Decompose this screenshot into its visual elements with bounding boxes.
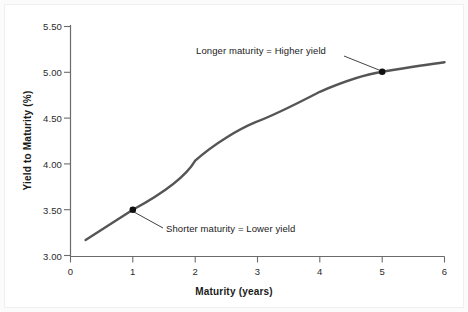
x-axis-title: Maturity (years) xyxy=(0,286,468,297)
x-tick-label-0: 0 xyxy=(61,266,81,277)
chart-figure: 5.50 5.00 4.50 4.00 3.50 3.00 0 1 2 3 4 … xyxy=(0,0,468,312)
x-tick-label-1: 1 xyxy=(123,266,143,277)
annotation-longer-maturity: Longer maturity = Higher yield xyxy=(196,45,326,56)
annotation-leader-lower xyxy=(134,212,163,228)
x-tick-label-4: 4 xyxy=(310,266,330,277)
yield-curve-line xyxy=(86,62,445,240)
y-tick-label-5-50: 5.50 xyxy=(20,21,62,32)
data-point-marker-1yr xyxy=(130,206,137,213)
annotation-shorter-maturity: Shorter maturity = Lower yield xyxy=(166,223,295,234)
x-axis-ticks xyxy=(71,257,445,263)
y-tick-label-3-00: 3.00 xyxy=(20,251,62,262)
data-point-marker-5yr xyxy=(379,69,386,76)
x-tick-label-5: 5 xyxy=(372,266,392,277)
x-tick-label-2: 2 xyxy=(185,266,205,277)
y-axis-ticks xyxy=(64,27,71,256)
annotation-leader-upper xyxy=(344,56,379,70)
x-tick-label-3: 3 xyxy=(248,266,268,277)
y-axis-title: Yield to Maturity (%) xyxy=(22,41,33,241)
x-tick-label-6: 6 xyxy=(435,266,455,277)
